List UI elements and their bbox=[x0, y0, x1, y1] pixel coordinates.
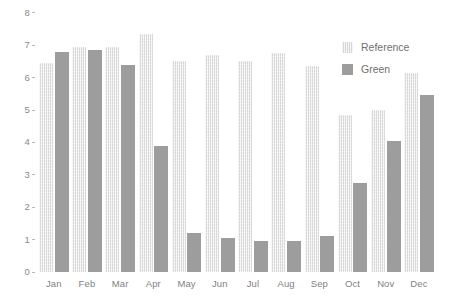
bar-reference-jun bbox=[205, 55, 219, 272]
y-axis-tick: 3 bbox=[25, 169, 38, 181]
y-axis-tick-mark bbox=[32, 110, 35, 111]
bar-chart: 012345678 JanFebMarAprMayJunJulAugSepOct… bbox=[0, 0, 456, 303]
y-axis-tick-mark bbox=[32, 45, 35, 46]
bar-reference-dec bbox=[404, 73, 418, 272]
bar-green-jun bbox=[221, 238, 235, 272]
legend-item-green[interactable]: Green bbox=[342, 64, 452, 75]
bar-green-mar bbox=[121, 65, 135, 272]
y-axis-tick-mark bbox=[32, 207, 35, 208]
bar-green-sep bbox=[320, 236, 334, 272]
y-axis-tick-label: 8 bbox=[25, 7, 30, 19]
bar-reference-aug bbox=[271, 53, 285, 272]
bar-group bbox=[238, 0, 268, 272]
legend-item-reference[interactable]: Reference bbox=[342, 42, 452, 53]
y-axis-tick-label: 6 bbox=[25, 72, 30, 84]
chart-legend: ReferenceGreen bbox=[342, 42, 452, 86]
bar-reference-may bbox=[172, 61, 186, 272]
bar-green-feb bbox=[88, 50, 102, 272]
y-axis-tick: 8 bbox=[25, 7, 38, 19]
bar-reference-apr bbox=[139, 34, 153, 272]
legend-label: Reference bbox=[361, 42, 409, 53]
bar-reference-mar bbox=[105, 47, 119, 272]
bar-group bbox=[271, 0, 301, 272]
bar-group bbox=[205, 0, 235, 272]
y-axis-tick-label: 2 bbox=[25, 201, 30, 213]
bar-reference-nov bbox=[371, 110, 385, 272]
bar-green-nov bbox=[387, 141, 401, 272]
y-axis-tick-mark bbox=[32, 239, 35, 240]
y-axis-tick-label: 5 bbox=[25, 104, 30, 116]
y-axis-tick-label: 7 bbox=[25, 39, 30, 51]
bar-reference-jan bbox=[39, 63, 53, 272]
legend-label: Green bbox=[361, 64, 390, 75]
legend-swatch-green bbox=[342, 64, 353, 75]
bar-green-apr bbox=[154, 146, 168, 272]
bar-group bbox=[305, 0, 335, 272]
bar-group bbox=[39, 0, 69, 272]
y-axis-tick: 7 bbox=[25, 39, 38, 51]
bar-group bbox=[72, 0, 102, 272]
bar-group bbox=[139, 0, 169, 272]
bar-reference-sep bbox=[305, 66, 319, 272]
bar-green-jan bbox=[55, 52, 69, 272]
y-axis-tick-mark bbox=[32, 174, 35, 175]
bar-reference-feb bbox=[72, 47, 86, 272]
bar-group bbox=[105, 0, 135, 272]
y-axis-tick-mark bbox=[32, 142, 35, 143]
y-axis-tick: 1 bbox=[25, 234, 38, 246]
legend-swatch-reference bbox=[342, 42, 353, 53]
bar-green-jul bbox=[254, 241, 268, 272]
y-axis-tick: 2 bbox=[25, 201, 38, 213]
bar-reference-jul bbox=[238, 61, 252, 272]
y-axis-tick-label: 4 bbox=[25, 136, 30, 148]
y-axis-tick-label: 0 bbox=[25, 266, 30, 278]
y-axis-tick: 0 bbox=[25, 266, 38, 278]
bar-group bbox=[172, 0, 202, 272]
y-axis-tick-mark bbox=[32, 12, 35, 13]
y-axis-tick: 5 bbox=[25, 104, 38, 116]
y-axis-tick-label: 1 bbox=[25, 234, 30, 246]
y-axis-tick-mark bbox=[32, 272, 35, 273]
y-axis-tick: 6 bbox=[25, 72, 38, 84]
bar-green-may bbox=[187, 233, 201, 272]
bar-reference-oct bbox=[338, 115, 352, 272]
bar-green-dec bbox=[420, 95, 434, 272]
x-axis: JanFebMarAprMayJunJulAugSepOctNovDec bbox=[38, 272, 456, 303]
bar-green-aug bbox=[287, 241, 301, 272]
bar-green-oct bbox=[353, 183, 367, 272]
y-axis: 012345678 bbox=[0, 0, 38, 303]
y-axis-tick-label: 3 bbox=[25, 169, 30, 181]
y-axis-tick-mark bbox=[32, 77, 35, 78]
x-axis-tick-label: Dec bbox=[398, 278, 440, 289]
y-axis-tick: 4 bbox=[25, 136, 38, 148]
